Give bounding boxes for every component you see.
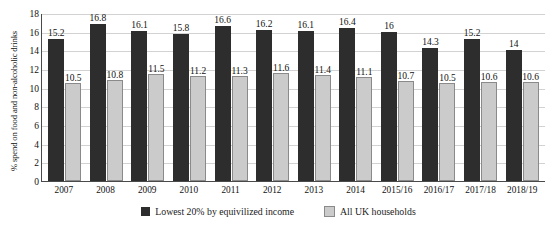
- bar-value-label: 16.6: [214, 15, 231, 25]
- x-axis-tick-label: 2013: [293, 185, 335, 195]
- bar-group: 16.611.3: [210, 14, 252, 181]
- y-axis-tick-label: 14: [30, 46, 40, 56]
- bar-value-label: 16.1: [297, 20, 314, 30]
- bar: 10.5: [439, 83, 455, 181]
- bar: 14.3: [422, 48, 438, 181]
- bar: 11.2: [190, 76, 206, 181]
- bar-group: 15.210.6: [460, 14, 502, 181]
- x-axis-tick-label: 2017/18: [460, 185, 502, 195]
- bar: 15.2: [48, 39, 64, 181]
- bar: 10.5: [65, 83, 81, 181]
- bar-value-label: 15.2: [48, 28, 65, 38]
- bar-group: 1410.6: [501, 14, 543, 181]
- bar-group: 14.310.5: [418, 14, 460, 181]
- bar: 11.5: [148, 74, 164, 181]
- bar: 11.3: [232, 76, 248, 181]
- bar: 10.7: [398, 81, 414, 181]
- y-axis-tick-label: 16: [30, 28, 40, 38]
- x-axis-tick-label: 2011: [210, 185, 252, 195]
- bar-group: 16.211.6: [252, 14, 294, 181]
- bar: 16: [381, 32, 397, 181]
- bar: 16.4: [339, 28, 355, 181]
- bar-value-label: 11.2: [190, 66, 206, 76]
- bar-value-label: 11.6: [273, 63, 289, 73]
- x-axis-tick-label: 2014: [335, 185, 377, 195]
- bar: 16.6: [215, 26, 231, 181]
- bar-group: 16.810.8: [86, 14, 128, 181]
- x-axis-tick-label: 2009: [126, 185, 168, 195]
- y-axis-tick-label: 4: [34, 140, 39, 150]
- bar-value-label: 11.4: [315, 65, 331, 75]
- bar: 16.1: [131, 31, 147, 181]
- bar: 10.6: [481, 82, 497, 181]
- x-axis-tick-label: 2015/16: [376, 185, 418, 195]
- x-axis-labels: 200720082009201020112012201320142015/162…: [43, 185, 543, 195]
- bar: 16.8: [90, 24, 106, 181]
- y-axis-tick-label: 8: [34, 102, 39, 112]
- bar-value-label: 10.6: [522, 72, 539, 82]
- x-axis-tick-label: 2016/17: [418, 185, 460, 195]
- x-axis-tick-label: 2008: [85, 185, 127, 195]
- bar: 10.8: [107, 80, 123, 181]
- bar-value-label: 16.2: [256, 19, 273, 29]
- bar-chart: % spend on food and non-alcoholic drinks…: [0, 0, 557, 233]
- y-axis-tick-label: 18: [30, 9, 40, 19]
- x-axis-tick-label: 2012: [251, 185, 293, 195]
- plot-area: 181614121086420 15.210.516.810.816.111.5…: [41, 14, 545, 182]
- x-axis-tick-label: 2010: [168, 185, 210, 195]
- legend-label: All UK households: [340, 206, 416, 217]
- bar: 11.4: [315, 75, 331, 181]
- bar-value-label: 15.2: [464, 28, 481, 38]
- bar-value-label: 11.3: [231, 66, 247, 76]
- bar-value-label: 11.1: [356, 67, 372, 77]
- y-axis-tick-label: 2: [34, 158, 39, 168]
- bar-value-label: 16.1: [131, 20, 148, 30]
- bar-value-label: 14.3: [422, 37, 439, 47]
- y-axis-tick-label: 12: [30, 65, 40, 75]
- bar-value-label: 16: [384, 21, 394, 31]
- bar-value-label: 14: [509, 39, 519, 49]
- bar-group: 1610.7: [377, 14, 419, 181]
- bar: 16.2: [256, 30, 272, 181]
- gridline: 0: [42, 182, 545, 183]
- bar: 15.2: [464, 39, 480, 181]
- bar-value-label: 10.8: [107, 70, 124, 80]
- bar: 15.8: [173, 34, 189, 181]
- bar-groups: 15.210.516.810.816.111.515.811.216.611.3…: [44, 14, 543, 181]
- bar-value-label: 10.7: [398, 71, 415, 81]
- bar-group: 16.111.5: [127, 14, 169, 181]
- bar-value-label: 15.8: [173, 23, 190, 33]
- bar: 11.1: [356, 77, 372, 181]
- bar-group: 15.210.5: [44, 14, 86, 181]
- y-axis-title: % spend on food and non-alcoholic drinks: [9, 1, 19, 201]
- legend-swatch: [141, 207, 150, 216]
- y-axis-tick-label: 0: [34, 177, 39, 187]
- y-axis-tick-label: 10: [30, 84, 40, 94]
- legend-label: Lowest 20% by equivilized income: [155, 206, 294, 217]
- bar: 16.1: [298, 31, 314, 181]
- legend-item[interactable]: Lowest 20% by equivilized income: [141, 206, 294, 217]
- bar-value-label: 11.5: [148, 64, 164, 74]
- bar-value-label: 10.6: [481, 72, 498, 82]
- chart-legend: Lowest 20% by equivilized incomeAll UK h…: [0, 206, 557, 217]
- bar-group: 15.811.2: [169, 14, 211, 181]
- legend-swatch: [324, 206, 335, 217]
- bar: 11.6: [273, 73, 289, 181]
- bar-value-label: 10.5: [439, 73, 456, 83]
- legend-item[interactable]: All UK households: [324, 206, 416, 217]
- bar: 10.6: [523, 82, 539, 181]
- y-axis-tick-label: 6: [34, 121, 39, 131]
- bar-group: 16.111.4: [293, 14, 335, 181]
- x-axis-tick-label: 2018/19: [501, 185, 543, 195]
- bar-value-label: 16.8: [90, 13, 107, 23]
- x-axis-tick-label: 2007: [43, 185, 85, 195]
- bar-value-label: 10.5: [65, 73, 82, 83]
- bar-group: 16.411.1: [335, 14, 377, 181]
- bar: 14: [506, 50, 522, 181]
- bar-value-label: 16.4: [339, 17, 356, 27]
